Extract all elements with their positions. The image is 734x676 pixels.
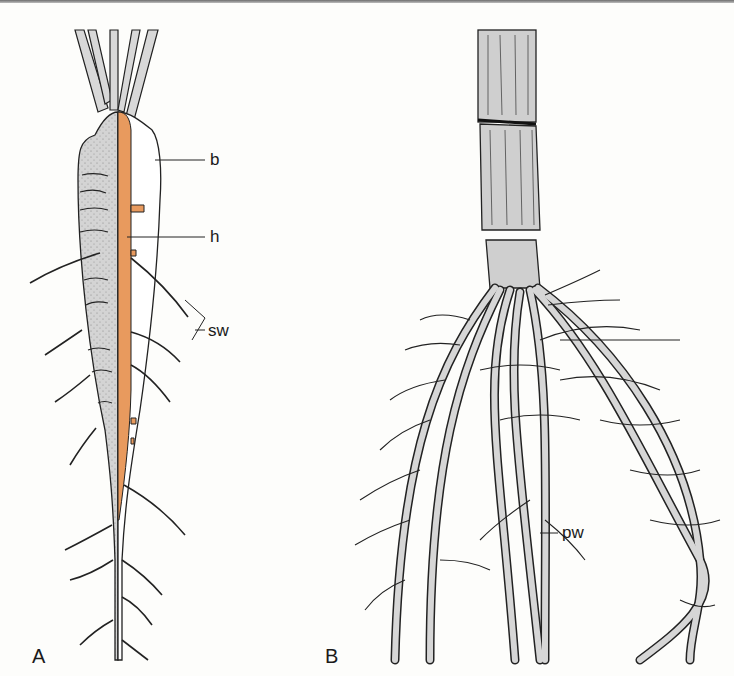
stem — [478, 30, 536, 122]
label-sw: sw — [208, 322, 229, 339]
panel-b-fibrous-roots — [355, 30, 720, 660]
panel-label-a: A — [32, 646, 45, 666]
figure-canvas — [0, 0, 734, 676]
root-surface-half — [78, 112, 118, 660]
label-b: b — [210, 151, 219, 168]
panel-a-taproot — [30, 30, 205, 660]
label-pw: pw — [562, 524, 584, 541]
panel-label-b: B — [325, 646, 338, 666]
leaf-stalks — [75, 30, 158, 120]
label-h: h — [210, 228, 219, 245]
